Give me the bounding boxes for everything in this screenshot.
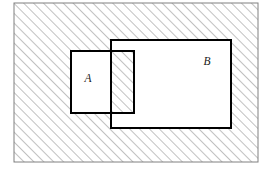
set-b-label: B	[203, 55, 210, 67]
set-a-label: A	[83, 72, 92, 84]
venn-diagram-figure: A B	[0, 0, 267, 169]
venn-diagram-canvas: A B	[0, 0, 267, 169]
